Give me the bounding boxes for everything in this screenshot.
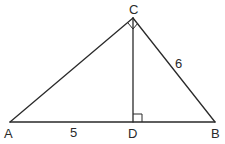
vertex-label-a: A <box>4 126 13 141</box>
vertex-label-d: D <box>128 126 137 141</box>
vertex-label-c: C <box>129 2 138 17</box>
vertex-label-b: B <box>211 126 220 141</box>
triangle-diagram: C A D B 5 6 <box>0 0 225 144</box>
length-label-ad: 5 <box>70 125 77 140</box>
length-label-bc: 6 <box>175 56 182 71</box>
segment-cb <box>133 18 215 122</box>
segment-ac <box>10 18 133 122</box>
right-angle-mark-d <box>133 114 142 122</box>
